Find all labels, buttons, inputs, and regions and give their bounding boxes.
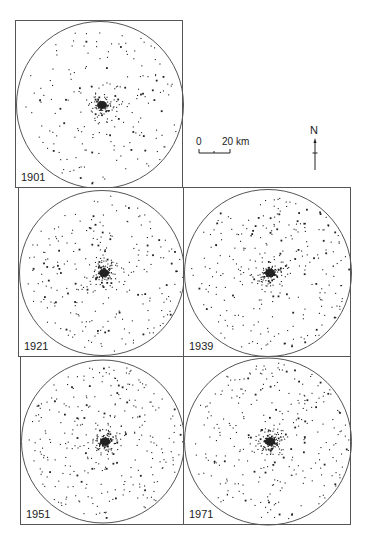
year-label-1951: 1951 — [26, 508, 50, 520]
map-panel-1939: 1939 — [183, 187, 351, 357]
dot-map-1939 — [184, 188, 352, 358]
scale-bar: 0 20 km — [196, 136, 256, 158]
map-panel-1971: 1971 — [183, 356, 351, 525]
north-arrow: N — [306, 124, 326, 172]
scale-bar-line — [196, 136, 256, 158]
dot-map-1901 — [16, 21, 184, 189]
dot-map-1921 — [19, 188, 185, 358]
north-arrow-icon — [306, 124, 326, 172]
map-panel-1951: 1951 — [20, 356, 184, 525]
map-panel-1901: 1901 — [15, 20, 183, 188]
year-label-1921: 1921 — [24, 340, 48, 352]
dot-map-1971 — [184, 357, 352, 526]
dot-map-1951 — [21, 357, 185, 526]
year-label-1901: 1901 — [21, 171, 45, 183]
map-panel-1921: 1921 — [18, 187, 184, 357]
year-label-1939: 1939 — [189, 340, 213, 352]
year-label-1971: 1971 — [189, 508, 213, 520]
